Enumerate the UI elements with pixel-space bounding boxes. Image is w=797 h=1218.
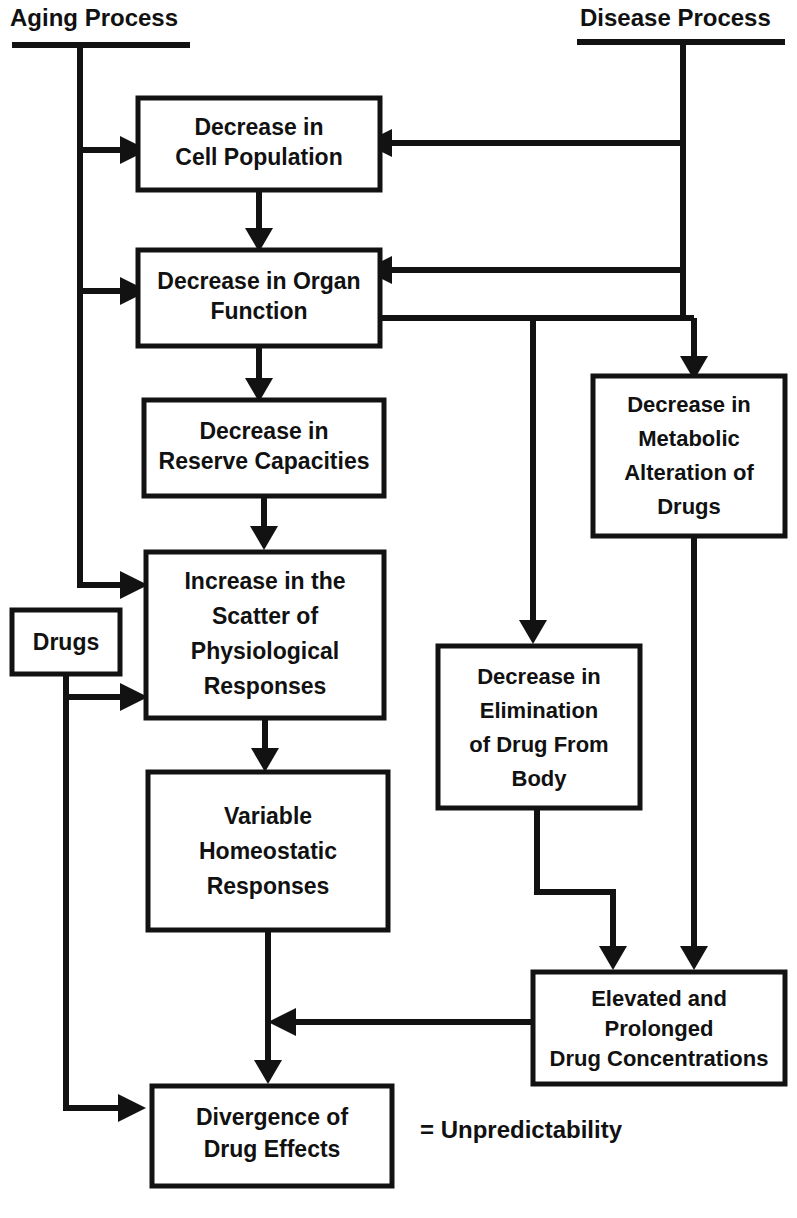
arrowhead-elimination-to-concentrations [599,946,627,970]
node-elimination-line-4: Body [512,766,568,791]
arrowhead-drugs-to-divergence [118,1094,146,1122]
node-divergence-drug-effects[interactable]: Divergence of Drug Effects [152,1086,392,1186]
node-concentrations-line-1: Elevated and [591,986,727,1011]
edge-concentrations-to-divergence [268,1008,533,1036]
arrowhead-organ-to-elimination [519,620,547,644]
node-drug-concentrations[interactable]: Elevated and Prolonged Drug Concentratio… [533,972,785,1084]
source-aging-process: Aging Process [10,4,190,45]
node-homeostatic-line-3: Responses [207,873,330,899]
node-reserve-capacities-line-1: Decrease in [199,418,328,444]
edge-elimination-to-concentrations [537,808,627,970]
node-divergence-line-1: Divergence of [196,1104,348,1130]
edge-organ-to-reserve [245,346,273,402]
legend-unpredictability: = Unpredictability [420,1116,623,1143]
node-drugs-label: Drugs [33,629,99,655]
node-scatter-physiological[interactable]: Increase in the Scatter of Physiological… [146,552,384,718]
flowchart-page: Aging Process Disease Process [0,0,797,1218]
node-organ-function-line-2: Function [210,298,307,324]
source-disease-process: Disease Process [577,4,785,42]
edge-drugs-branch [66,674,148,1122]
node-cell-population-line-1: Decrease in [194,114,323,140]
node-homeostatic-responses[interactable]: Variable Homeostatic Responses [148,772,388,930]
node-scatter-line-1: Increase in the [184,568,345,594]
node-concentrations-line-2: Prolonged [605,1016,714,1041]
node-cell-population-line-2: Cell Population [175,144,342,170]
node-concentrations-line-3: Drug Concentrations [550,1046,769,1071]
node-homeostatic-line-1: Variable [224,803,312,829]
flowchart-canvas: Aging Process Disease Process [0,0,797,1218]
node-divergence-line-2: Drug Effects [204,1136,341,1162]
node-elimination-line-2: Elimination [480,698,599,723]
node-metabolic-line-4: Drugs [657,494,721,519]
node-homeostatic-line-2: Homeostatic [199,838,337,864]
arrowhead-metabolic-to-concentrations [680,946,708,970]
edge-reserve-to-scatter [250,496,278,550]
source-label-disease: Disease Process [580,4,771,31]
node-elimination-line-3: of Drug From [469,732,608,757]
node-organ-function-line-1: Decrease in Organ [157,268,360,294]
arrowhead-scatter-to-homeostatic [251,748,279,772]
arrowhead-homeostatic-to-divergence [254,1060,282,1084]
arrowhead-concentrations-to-trunk [268,1008,296,1036]
node-cell-population[interactable]: Decrease in Cell Population [138,98,380,190]
node-scatter-line-4: Responses [204,673,327,699]
node-elimination-line-1: Decrease in [477,664,601,689]
node-reserve-capacities-line-2: Reserve Capacities [159,448,370,474]
edge-disease-trunk [364,42,683,318]
edge-scatter-to-homeostatic [251,718,279,772]
node-metabolic-line-2: Metabolic [638,426,739,451]
arrowhead-reserve-to-scatter [250,526,278,550]
node-metabolic-line-3: Alteration of [624,460,754,485]
node-elimination-of-drug[interactable]: Decrease in Elimination of Drug From Bod… [438,646,640,808]
node-organ-function[interactable]: Decrease in Organ Function [138,250,380,346]
edge-homeostatic-to-divergence [254,930,282,1084]
edge-metabolic-to-concentrations [680,536,708,970]
node-drugs[interactable]: Drugs [12,610,120,674]
node-metabolic-alteration[interactable]: Decrease in Metabolic Alteration of Drug… [593,376,785,536]
edge-cell-to-organ [245,190,273,252]
node-metabolic-line-1: Decrease in [627,392,751,417]
node-scatter-line-2: Scatter of [212,603,318,629]
node-reserve-capacities[interactable]: Decrease in Reserve Capacities [144,400,384,496]
node-scatter-line-3: Physiological [191,638,339,664]
source-label-aging: Aging Process [10,4,178,31]
